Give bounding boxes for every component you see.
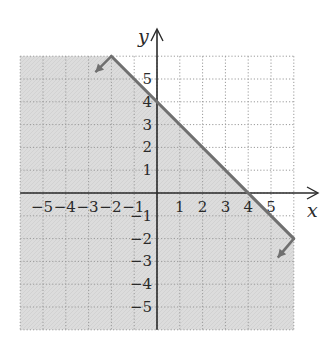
- x-tick-label: 4: [243, 198, 253, 216]
- y-tick-label: −5: [130, 298, 152, 316]
- y-tick-label: −4: [130, 275, 152, 293]
- y-tick-label: −2: [130, 230, 152, 248]
- x-tick-label: 2: [198, 198, 208, 216]
- x-axis-label: x: [307, 199, 318, 221]
- y-tick-label: 5: [142, 70, 152, 88]
- x-tick-label: −5: [31, 198, 53, 216]
- x-tick-label: −3: [77, 198, 99, 216]
- y-axis-label: y: [137, 25, 149, 47]
- x-tick-label: 3: [221, 198, 231, 216]
- x-tick-label: −2: [99, 198, 121, 216]
- x-tick-label: −4: [54, 198, 76, 216]
- y-tick-label: 2: [142, 138, 152, 156]
- y-tick-label: −1: [130, 207, 152, 225]
- y-tick-label: 1: [142, 161, 152, 179]
- x-tick-label: 1: [175, 198, 185, 216]
- y-tick-label: −3: [130, 252, 152, 270]
- y-tick-label: 3: [142, 116, 152, 134]
- inequality-graph: −5−4−3−2−112345 54321−1−2−3−4−5 x y: [0, 0, 336, 350]
